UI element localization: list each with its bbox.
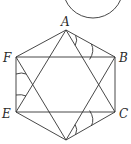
segment-AC	[66, 30, 115, 112]
vertex-label-C: C	[119, 107, 128, 121]
partial-circle	[63, 0, 123, 18]
angle-arc-A-inner	[75, 35, 77, 45]
hexagon-outline	[16, 30, 115, 140]
vertex-label-E: E	[1, 107, 11, 121]
angle-arc-D-inner	[75, 125, 77, 135]
vertex-label-A: A	[60, 15, 70, 29]
hexagon-diagram: A B C E F	[0, 0, 131, 144]
segment-DF	[16, 57, 66, 140]
segment-AE	[16, 30, 66, 112]
angle-arc-F	[16, 73, 26, 74]
segment-DB	[66, 57, 115, 140]
angle-arc-E	[16, 95, 26, 96]
angle-arc-D-outer	[90, 111, 93, 127]
vertex-label-F: F	[2, 51, 12, 65]
vertex-label-B: B	[118, 51, 128, 65]
